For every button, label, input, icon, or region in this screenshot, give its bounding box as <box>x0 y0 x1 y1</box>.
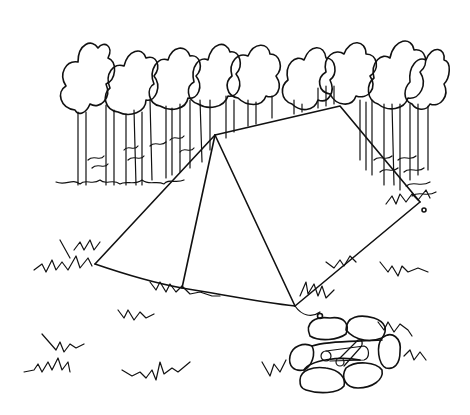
line-drawing <box>0 0 470 415</box>
tent <box>95 106 426 319</box>
camping-scene-illustration <box>0 0 470 415</box>
tree-row <box>56 41 449 196</box>
grass-tufts <box>24 190 430 380</box>
fire-pit <box>290 316 401 392</box>
